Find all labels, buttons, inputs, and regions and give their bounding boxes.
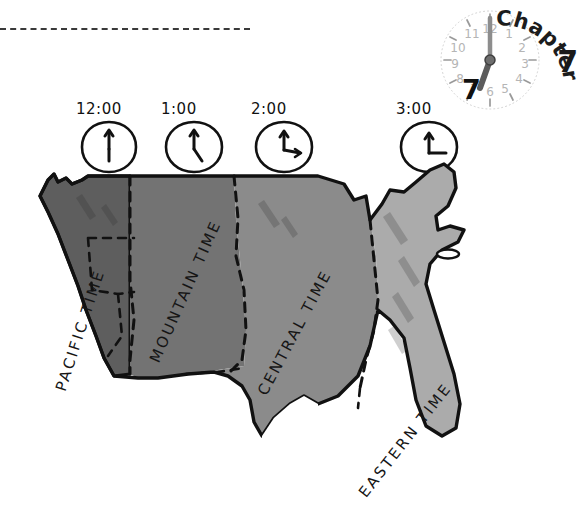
us-time-zone-map: PACIFIC TIME MOUNTAIN TIME CENTRAL TIME … <box>18 160 570 490</box>
svg-text:5: 5 <box>501 82 509 96</box>
top-dashed-rule <box>0 28 250 30</box>
svg-text:9: 9 <box>451 57 459 71</box>
state-borders-gulf <box>358 388 360 408</box>
us-map-svg <box>18 160 570 490</box>
central-clock-label: 2:00 <box>251 100 323 118</box>
chapter-number: 7 <box>557 44 577 79</box>
long-island <box>437 250 459 259</box>
svg-text:6: 6 <box>486 85 494 99</box>
svg-text:11: 11 <box>464 27 479 41</box>
svg-text:4: 4 <box>515 72 523 86</box>
svg-text:3: 3 <box>521 57 529 71</box>
mountain-clock-label: 1:00 <box>161 100 233 118</box>
worksheet-page: 12 1 2 3 4 5 6 7 8 9 10 11 Chapt <box>0 0 583 513</box>
pacific-clock-label: 12:00 <box>76 100 148 118</box>
svg-text:10: 10 <box>450 41 465 55</box>
eastern-clock-label: 3:00 <box>396 100 468 118</box>
zone-mountain <box>130 176 246 378</box>
svg-text:2: 2 <box>518 41 526 55</box>
